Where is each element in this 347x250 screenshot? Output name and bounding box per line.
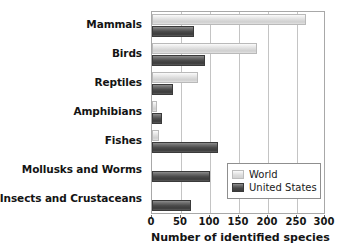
category-label-insects-and-crustaceans: Insects and Crustaceans xyxy=(0,193,142,204)
bar-united-states-fishes xyxy=(152,142,218,153)
legend-label-world: World xyxy=(249,169,278,180)
species-bar-chart: Mammals Birds Reptiles Amphibians Fishes… xyxy=(0,0,347,250)
bar-united-states-reptiles xyxy=(152,84,173,95)
category-label-fishes: Fishes xyxy=(105,135,142,146)
legend-item-united-states: United States xyxy=(232,181,315,194)
xtick-label-250: 250 xyxy=(286,216,307,227)
bar-world-amphibians xyxy=(152,101,157,112)
bar-united-states-insects-and-crustaceans xyxy=(152,200,191,211)
category-axis-labels: Mammals Birds Reptiles Amphibians Fishes… xyxy=(0,11,147,214)
legend-label-united-states: United States xyxy=(249,182,317,193)
xtick-label-0: 0 xyxy=(148,216,155,227)
bar-united-states-amphibians xyxy=(152,113,162,124)
bar-world-reptiles xyxy=(152,72,198,83)
chart-legend: World United States xyxy=(227,163,321,199)
legend-item-world: World xyxy=(232,168,315,181)
category-label-mollusks-and-worms: Mollusks and Worms xyxy=(22,164,142,175)
category-label-birds: Birds xyxy=(112,48,142,59)
xtick-label-150: 150 xyxy=(228,216,249,227)
bar-united-states-mollusks-and-worms xyxy=(152,171,210,182)
category-label-reptiles: Reptiles xyxy=(94,77,142,88)
xtick-label-100: 100 xyxy=(199,216,220,227)
united-states-swatch-icon xyxy=(232,183,244,192)
bar-world-mammals xyxy=(152,14,306,25)
category-label-mammals: Mammals xyxy=(86,19,142,30)
bar-world-birds xyxy=(152,43,257,54)
category-label-amphibians: Amphibians xyxy=(73,106,142,117)
bar-united-states-mammals xyxy=(152,26,194,37)
xtick-label-50: 50 xyxy=(173,216,187,227)
bar-united-states-birds xyxy=(152,55,205,66)
bar-world-fishes xyxy=(152,130,159,141)
world-swatch-icon xyxy=(232,170,244,179)
x-axis-title: Number of identified species xyxy=(151,231,325,244)
xtick-label-300: 300 xyxy=(314,216,335,227)
xtick-label-200: 200 xyxy=(257,216,278,227)
